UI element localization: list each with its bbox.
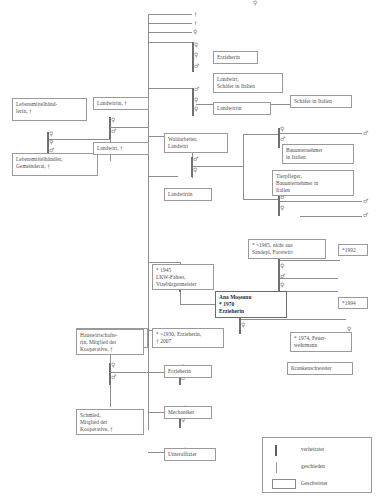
person-box-1930-erzieherin-alt[interactable]: * ~1930, Erzieherin, † 2007 xyxy=(152,328,224,348)
gender-icon-f7: ♀ xyxy=(49,131,53,137)
right-branch-2 xyxy=(243,199,279,200)
gender-icon-m6: ♂ xyxy=(193,156,198,162)
gender-icon-f6: ♀ xyxy=(111,117,115,123)
deceased-icon-2: † xyxy=(194,20,197,26)
person-box-landwirtin-3[interactable]: Landwirtin xyxy=(164,188,212,201)
gender-icon-m4: ♂ xyxy=(111,128,116,134)
person-box-1945-lkw[interactable]: * 1945 LKW-Fahrer, Vizebürgermeister xyxy=(152,264,214,290)
person-box-landwirt-1[interactable]: Landwirt, † xyxy=(93,142,149,155)
person-box-landwirt-schaefer[interactable]: Landwirt; Schäfer in Italien xyxy=(213,73,283,93)
legend-divorced-label: geschieden xyxy=(301,463,325,470)
person-box-hauswirtschafterin[interactable]: Hauswirtschafte- rin, Mitglied der Koope… xyxy=(76,329,144,355)
sibling-branch-2 xyxy=(148,23,192,24)
schmied-stem xyxy=(110,385,111,407)
person-box-erzieherin-1[interactable]: Erzieherin xyxy=(213,51,258,64)
person-box-landwirtin-1[interactable]: Landwirtin, † xyxy=(93,97,149,110)
gender-icon-f15: ♀ xyxy=(241,322,245,328)
person-box-1974-feuerwehrmann[interactable]: * 1974, Feuer- wehrmann xyxy=(290,332,352,352)
s1965-link xyxy=(280,260,340,261)
person-box-tierpfleger[interactable]: Tierpfleger, Bauunternehmer in Italien xyxy=(272,170,354,196)
gender-icon-m8: ♂ xyxy=(363,130,368,136)
gender-icon-f2: ♀ xyxy=(194,42,198,48)
r2-link xyxy=(280,201,362,202)
right-sibling-spine xyxy=(243,134,244,200)
left-couple-link xyxy=(110,127,148,128)
genealogy-diagram: ♀ † † ♀ ♀ ♀ ♂ ♂ ♀ ♀ ♂ ♀ ♂ ♀ ♀ ♂ ♂ ♀ ♀ ♂ … xyxy=(0,0,385,503)
ana-link xyxy=(280,291,338,292)
gender-icon-f12: ♀ xyxy=(280,263,284,269)
legend-sibling-label: Geschwister xyxy=(301,480,328,487)
gender-icon-m16: ♂ xyxy=(111,374,116,380)
gender-icon-m11: ♂ xyxy=(363,212,368,218)
gender-icon-f10: ♀ xyxy=(280,126,284,132)
main-branch-1945 xyxy=(148,262,180,263)
legend-married-icon xyxy=(275,445,277,456)
person-box-1994[interactable]: *1994 xyxy=(338,297,368,309)
person-box-mechaniker[interactable]: Mechaniker xyxy=(164,406,212,419)
left-spouse-link xyxy=(48,139,110,140)
person-box-schmied[interactable]: Schmied, Mitglied der Kooperative, † xyxy=(76,409,144,435)
deceased-icon-1: † xyxy=(194,11,197,17)
person-box-schaefer-italien[interactable]: Schäfer in Italien xyxy=(290,95,352,108)
person-box-1965-forstwirt[interactable]: * ~1965, nicht aus Sandepi, Forstwirt xyxy=(248,239,326,259)
sibling-branch-7 xyxy=(148,176,178,177)
r3-link xyxy=(300,216,362,217)
legend-panel: verheiratet geschieden Geschwister xyxy=(262,437,372,493)
main-spine xyxy=(148,200,149,430)
r1-link xyxy=(280,133,362,134)
person-box-lebensmittelhaendler[interactable]: Lebensmittelhändler, Gemeinderat, † xyxy=(12,153,98,176)
person-box-erzieherin-2[interactable]: Erzieherin xyxy=(164,365,212,378)
s1974-link xyxy=(241,319,346,320)
person-box-krankenschwester[interactable]: Krankenschwester xyxy=(287,362,353,375)
ana-child-link xyxy=(280,278,338,279)
person-box-waldarbeiter[interactable]: Waldarbeiter, Landwirt xyxy=(164,133,228,153)
gender-icon-f11: ♀ xyxy=(280,205,284,211)
person-box-bauunternehmer[interactable]: Bauunternehmer in Italien xyxy=(282,144,354,164)
gender-icon-f13: ♀ xyxy=(280,282,284,288)
sibling-branch-5 xyxy=(148,88,192,89)
sibling-branch-3 xyxy=(148,32,192,33)
gender-icon-f5: ♀ xyxy=(194,106,198,112)
gender-icon-f3: ♀ xyxy=(194,52,198,58)
gender-icon-f17: ♀ xyxy=(111,362,115,368)
gender-icon-f1: ♀ xyxy=(193,29,197,35)
person-box-landwirtin-2[interactable]: Landwirtin xyxy=(213,102,271,115)
hausw-link xyxy=(110,372,148,373)
person-box-ana-moseanu[interactable]: Ana Moşeanu * 1970 Erzieherin xyxy=(215,291,287,318)
gender-icon-m7: ♂ xyxy=(280,136,285,142)
top-gender-icon: ♀ xyxy=(253,0,257,6)
gender-icon-m2: ♂ xyxy=(194,86,199,92)
gender-icon-f4: ♀ xyxy=(194,97,198,103)
sibling-branch-4 xyxy=(148,42,192,43)
gender-icon-f8: ♀ xyxy=(49,139,53,145)
gender-icon-m10: ♂ xyxy=(363,198,368,204)
right-branch-1 xyxy=(243,134,279,135)
person-box-1992[interactable]: *1992 xyxy=(338,244,368,256)
gender-icon-f9: ♀ xyxy=(193,167,197,173)
legend-sibling-icon xyxy=(272,479,296,489)
person-box-unteroffizier[interactable]: Unteroffizier xyxy=(164,448,216,461)
gender-icon-m1: ♂ xyxy=(194,63,199,69)
legend-married-label: verheiratet xyxy=(301,446,324,453)
legend-divorced-icon xyxy=(276,462,277,473)
mid-couple-link xyxy=(193,166,243,167)
sibling-branch-1 xyxy=(148,14,192,15)
person-box-lebensmittelhaendlerin[interactable]: Lebensmittelhänd- lerin, † xyxy=(12,98,87,121)
